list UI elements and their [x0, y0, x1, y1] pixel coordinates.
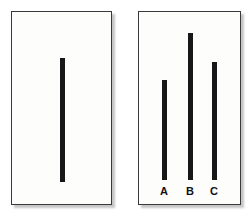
comparison-line-a [162, 80, 167, 180]
standard-line [60, 58, 65, 182]
comparison-lines-card: A B C [138, 11, 241, 205]
standard-line-card [11, 11, 112, 205]
comparison-line-c [212, 62, 217, 180]
comparison-line-b-label: B [183, 186, 197, 197]
comparison-line-a-label: A [157, 186, 171, 197]
comparison-line-b [188, 33, 193, 180]
line-comparison-figure: A B C [0, 0, 252, 221]
comparison-line-c-label: C [207, 186, 221, 197]
